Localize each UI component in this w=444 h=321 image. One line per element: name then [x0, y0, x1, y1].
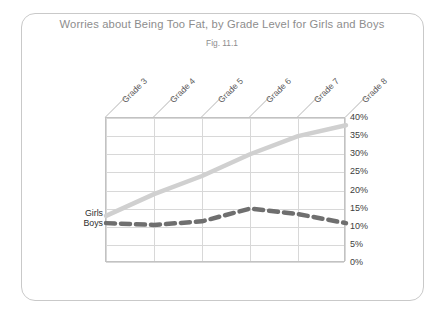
series-label-boys: Boys — [83, 218, 103, 228]
chart-subtitle: Fig. 11.1 — [0, 38, 444, 48]
y-axis-tick-label: 5% — [350, 239, 363, 249]
plot-area — [105, 117, 345, 262]
y-axis-tick-label: 20% — [350, 185, 368, 195]
y-axis-tick-label: 15% — [350, 203, 368, 213]
y-axis-tick-label: 35% — [350, 130, 368, 140]
y-axis-tick-label: 10% — [350, 221, 368, 231]
series-line-girls — [106, 125, 346, 216]
y-axis-tick-label: 40% — [350, 112, 368, 122]
series-line-boys — [106, 209, 346, 225]
chart-title: Worries about Being Too Fat, by Grade Le… — [0, 18, 444, 30]
y-axis-tick-label: 0% — [350, 257, 363, 267]
chart-screenshot: Worries about Being Too Fat, by Grade Le… — [0, 0, 444, 321]
y-axis-tick-label: 30% — [350, 148, 368, 158]
y-axis-tick-label: 25% — [350, 166, 368, 176]
series-label-girls: Girls — [85, 208, 103, 218]
series-group — [106, 118, 346, 263]
